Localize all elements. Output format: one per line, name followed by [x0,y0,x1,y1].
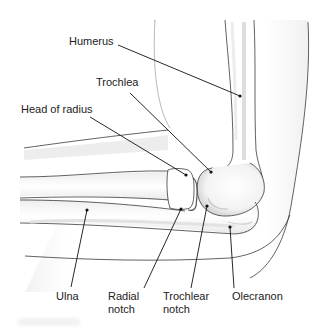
label-trochlear-notch: Trochlear notch [163,290,209,316]
label-radial-notch-line2: notch [108,303,139,316]
label-radial-notch: Radial notch [108,290,139,316]
label-trochlea: Trochlea [96,76,138,89]
elbow-illustration [0,0,331,334]
label-trochlear-notch-line2: notch [163,303,209,316]
label-trochlear-notch-line1: Trochlear [163,290,209,303]
faint-caption [18,318,80,326]
label-humerus: Humerus [69,35,114,48]
label-ulna: Ulna [56,290,79,303]
label-olecranon: Olecranon [232,290,283,303]
label-head-of-radius: Head of radius [21,103,93,116]
elbow-diagram: Humerus Trochlea Head of radius Ulna Rad… [0,0,331,334]
label-radial-notch-line1: Radial [108,290,139,303]
